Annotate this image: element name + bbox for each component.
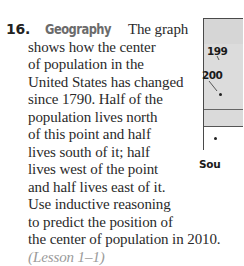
- exercise-text-line: population lives north: [28, 109, 157, 126]
- exercise-text-line: of this point and half: [28, 126, 151, 143]
- exercise-text-line: United States has changed: [28, 74, 183, 91]
- exercise-text-line: to predict the position of: [28, 214, 173, 231]
- map-leader-line: [204, 19, 244, 151]
- exercise-first-line: 16. Geography The graph: [6, 21, 188, 38]
- exercise-text-line: shows how the center: [28, 39, 156, 56]
- exercise-text-line: and half lives east of it.: [28, 179, 165, 196]
- exercise-number: 16.: [6, 21, 30, 37]
- exercise-text-line: The graph: [128, 21, 188, 37]
- map-source-label: Sou: [199, 158, 220, 170]
- exercise-text-line: lives south of it; half: [28, 144, 150, 161]
- exercise-text-line: since 1790. Half of the: [28, 91, 163, 108]
- exercise-text-line: lives west of the point: [28, 161, 158, 178]
- exercise-topic: Geography: [45, 21, 111, 38]
- exercise-text-line: the center of population in 2010.: [28, 231, 220, 248]
- population-center-map: 199 200: [203, 18, 243, 150]
- lesson-reference: (Lesson 1–1): [28, 249, 105, 266]
- exercise-text-line: of population in the: [28, 56, 144, 73]
- exercise-text-line: Use inductive reasoning: [28, 196, 171, 213]
- population-center-dot-icon: [219, 93, 222, 96]
